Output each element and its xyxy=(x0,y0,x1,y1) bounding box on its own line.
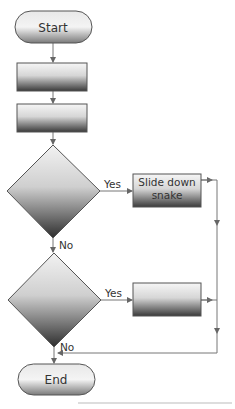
node-process3[interactable] xyxy=(133,283,201,316)
node-start[interactable]: Start xyxy=(15,11,92,43)
edge-label-d1-yes: Yes xyxy=(103,178,121,190)
flowchart-canvas: Start Slide down snake End Yes No Yes No xyxy=(0,0,235,409)
slide-label-line2: snake xyxy=(152,189,183,201)
node-end[interactable]: End xyxy=(18,364,95,395)
edge-label-d1-no: No xyxy=(59,239,73,251)
edge-label-d2-no: No xyxy=(60,341,74,353)
start-label: Start xyxy=(38,21,68,35)
node-decision2[interactable] xyxy=(8,253,101,347)
node-process1[interactable] xyxy=(17,63,87,91)
node-slide-down-snake[interactable]: Slide down snake xyxy=(133,174,201,207)
node-decision1[interactable] xyxy=(7,145,100,238)
end-label: End xyxy=(45,373,68,387)
edge-label-d2-yes: Yes xyxy=(104,287,122,299)
slide-label-line1: Slide down xyxy=(138,176,195,188)
node-process2[interactable] xyxy=(17,104,87,132)
